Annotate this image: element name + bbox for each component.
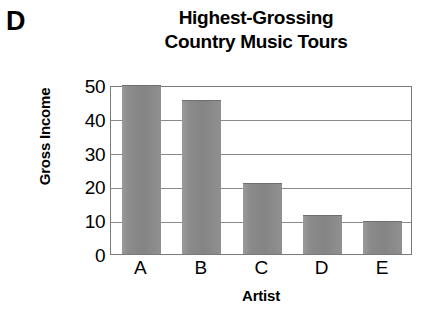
x-tick-label: B bbox=[176, 258, 226, 277]
bar-d bbox=[303, 215, 342, 254]
x-tick-label: C bbox=[236, 258, 286, 277]
y-tick-label: 20 bbox=[72, 178, 105, 197]
x-tick-label: D bbox=[296, 258, 346, 277]
bar-c bbox=[243, 183, 282, 254]
panel-label: D bbox=[6, 8, 25, 35]
bar-e bbox=[363, 221, 402, 254]
y-tick-label: 10 bbox=[72, 212, 105, 231]
x-tick-label: E bbox=[357, 258, 407, 277]
chart-title-line-1: Highest-Grossing bbox=[96, 6, 416, 30]
plot-area bbox=[110, 86, 412, 255]
y-tick-label: 0 bbox=[72, 246, 105, 265]
chart-title: Highest-Grossing Country Music Tours bbox=[96, 6, 416, 55]
bar-a bbox=[122, 85, 161, 254]
y-tick-label: 50 bbox=[72, 77, 105, 96]
chart-figure: D Highest-Grossing Country Music Tours G… bbox=[0, 0, 442, 331]
bar-b bbox=[182, 100, 221, 254]
y-tick-label: 40 bbox=[72, 111, 105, 130]
x-tick-label: A bbox=[115, 258, 165, 277]
y-tick-label: 30 bbox=[72, 145, 105, 164]
x-axis-label: Artist bbox=[110, 287, 412, 304]
chart-title-line-2: Country Music Tours bbox=[96, 30, 416, 54]
y-axis-label: Gross Income bbox=[36, 67, 53, 207]
